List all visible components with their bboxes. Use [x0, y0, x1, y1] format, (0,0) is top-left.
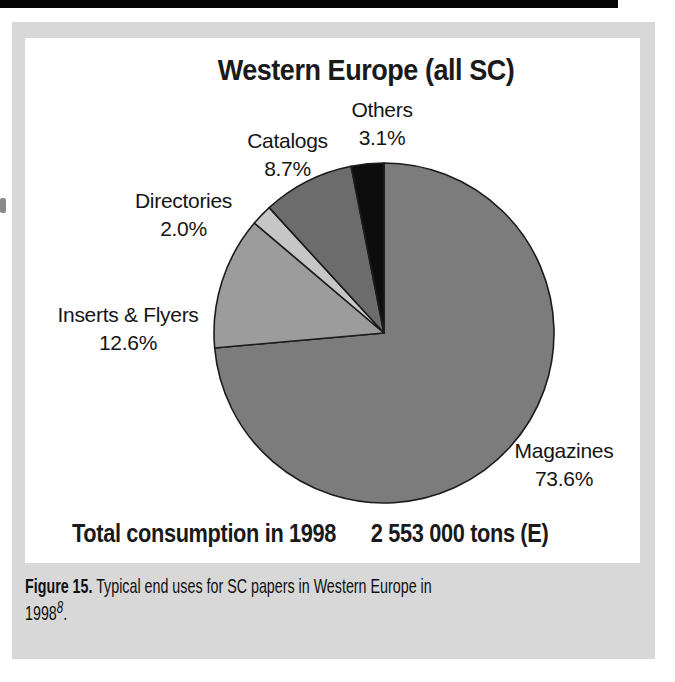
- slice-percent: 73.6%: [494, 465, 634, 493]
- chart-title: Western Europe (all SC): [186, 54, 546, 86]
- total-consumption-line: Total consumption in 1998 2 553 000 tons…: [72, 518, 548, 548]
- slice-name: Magazines: [494, 437, 634, 465]
- scan-artifact-top-bar: [0, 0, 618, 8]
- slice-label-directories: Directories 2.0%: [111, 187, 256, 243]
- slice-label-catalogs: Catalogs 8.7%: [215, 127, 360, 183]
- caption-text: Typical end uses for SC papers in Wester…: [92, 574, 431, 597]
- scanned-figure-page: { "chart_data": { "type": "pie", "title"…: [0, 0, 675, 682]
- slice-name: Inserts & Flyers: [38, 301, 218, 329]
- figure-caption: Figure 15. Typical end uses for SC paper…: [25, 572, 623, 626]
- caption-year: 1998: [25, 601, 57, 624]
- slice-name: Catalogs: [215, 127, 360, 155]
- total-consumption-label: Total consumption in 1998: [72, 518, 336, 548]
- slice-percent: 8.7%: [215, 155, 360, 183]
- slice-percent: 12.6%: [38, 329, 218, 357]
- slice-label-inserts-flyers: Inserts & Flyers 12.6%: [38, 301, 218, 357]
- slice-name: Others: [312, 96, 452, 124]
- scan-artifact-left-mark: [0, 198, 6, 213]
- figure-number: Figure 15.: [25, 574, 92, 597]
- caption-period: .: [63, 601, 67, 624]
- slice-percent: 2.0%: [111, 215, 256, 243]
- total-consumption-value: 2 553 000 tons (E): [371, 518, 548, 548]
- slice-name: Directories: [111, 187, 256, 215]
- caption-reference-mark: 8: [57, 598, 63, 617]
- slice-label-magazines: Magazines 73.6%: [494, 437, 634, 493]
